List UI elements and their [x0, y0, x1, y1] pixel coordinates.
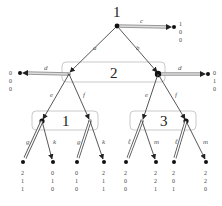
action-label-k-1: k [53, 138, 57, 146]
payoff-leaf-8: 2 2 0 [204, 170, 207, 192]
svg-text:0: 0 [204, 186, 207, 192]
payoff-leaf-5: 2 0 0 [124, 170, 127, 192]
payoff-leaf-7: 2 0 1 [172, 170, 175, 192]
payoff-d-left: 0 0 0 [9, 70, 12, 92]
edge-k-1 [42, 121, 52, 159]
action-label-d-left: d [44, 64, 48, 72]
svg-text:1: 1 [179, 21, 182, 27]
svg-text:0: 0 [213, 86, 216, 92]
player-label-1-lower: 1 [62, 113, 70, 129]
svg-text:1: 1 [154, 186, 157, 192]
svg-text:1: 1 [21, 178, 24, 184]
action-label-b: b [136, 44, 140, 52]
player-label-2: 2 [110, 65, 118, 81]
svg-text:1: 1 [21, 186, 24, 192]
payoff-leaf-4: 2 1 1 [102, 170, 105, 192]
svg-text:0: 0 [9, 86, 12, 92]
game-tree-diagram: 1 2 1 3 c a b 1 0 0 d 0 0 0 d 0 1 0 e f [0, 0, 222, 206]
action-label-g-1: g [26, 138, 30, 146]
svg-text:1: 1 [75, 178, 78, 184]
svg-text:2: 2 [102, 170, 105, 176]
action-label-f-left: f [83, 91, 86, 99]
svg-text:1: 1 [213, 78, 216, 84]
arrowhead-c [166, 24, 172, 30]
svg-text:1: 1 [102, 186, 105, 192]
svg-text:2: 2 [154, 178, 157, 184]
edge-f-left [69, 74, 89, 119]
action-label-a: a [93, 44, 97, 52]
svg-text:0: 0 [9, 70, 12, 76]
svg-text:2: 2 [21, 170, 24, 176]
arrowhead-d-right [200, 71, 206, 77]
action-label-e-right: e [145, 91, 148, 99]
svg-text:0: 0 [75, 170, 78, 176]
node-root [115, 24, 120, 29]
svg-text:1: 1 [172, 186, 175, 192]
arrowhead-d-left [22, 70, 28, 76]
payoff-d-right: 0 1 0 [213, 70, 216, 92]
payoff-c: 1 0 0 [179, 21, 182, 43]
action-label-l-2: ℓ [174, 138, 178, 146]
svg-text:0: 0 [213, 70, 216, 76]
action-label-c: c [140, 17, 144, 25]
payoff-leaf-1: 2 1 1 [21, 170, 24, 192]
svg-text:0: 0 [9, 78, 12, 84]
player-label-root: 1 [113, 4, 121, 20]
action-label-l-1: ℓ [127, 138, 131, 146]
payoff-leaf-2: 0 1 0 [51, 170, 54, 192]
action-label-k-2: k [102, 138, 106, 146]
svg-text:0: 0 [179, 29, 182, 35]
svg-text:0: 0 [179, 37, 182, 43]
svg-text:0: 0 [172, 178, 175, 184]
svg-text:0: 0 [51, 186, 54, 192]
svg-text:2: 2 [204, 178, 207, 184]
action-label-m-2: m [203, 138, 208, 146]
action-label-g-2: g [77, 138, 81, 146]
svg-text:2: 2 [124, 170, 127, 176]
svg-text:2: 2 [172, 170, 175, 176]
svg-text:1: 1 [51, 178, 54, 184]
svg-text:1: 1 [102, 178, 105, 184]
payoff-leaf-3: 0 1 0 [75, 170, 78, 192]
svg-text:2: 2 [204, 170, 207, 176]
svg-text:0: 0 [75, 186, 78, 192]
payoff-leaf-6: 2 2 1 [154, 170, 157, 192]
svg-text:0: 0 [51, 170, 54, 176]
player-label-3: 3 [160, 113, 168, 129]
action-label-d-right: d [178, 64, 182, 72]
action-label-f-right: f [175, 91, 178, 99]
action-label-e-left: e [50, 91, 53, 99]
svg-text:0: 0 [124, 178, 127, 184]
svg-text:2: 2 [154, 170, 157, 176]
action-label-m-1: m [154, 138, 159, 146]
svg-text:0: 0 [124, 186, 127, 192]
